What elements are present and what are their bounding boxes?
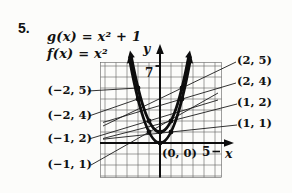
point-label-neg1-1: (−1, 1) [36, 158, 92, 171]
point-label-2-5: (2, 5) [237, 54, 272, 67]
leader-neg2-5 [88, 88, 138, 91]
x-tick-label: 5 [202, 145, 210, 159]
data-point [180, 86, 185, 91]
leader-neg2-4 [89, 99, 138, 116]
data-point [180, 97, 185, 102]
x-axis-label: x [225, 146, 232, 161]
point-label-1-1: (1, 1) [237, 117, 272, 130]
data-point [136, 97, 141, 102]
y-axis-label: y [143, 41, 150, 56]
data-point [169, 130, 174, 135]
point-label-2-4: (2, 4) [237, 75, 272, 88]
leader-neg1-2 [89, 100, 218, 139]
data-point [147, 119, 152, 124]
y-axis-arrow-icon [156, 44, 164, 54]
data-point [169, 119, 174, 124]
point-label-1-2: (1, 2) [237, 96, 272, 109]
figure-problem-5: 5. g(x) = x² + 1 f(x) = x² [0, 0, 292, 193]
point-label-neg2-5: (−2, 5) [36, 84, 92, 97]
origin-label: (0, 0) [162, 146, 197, 160]
data-point [158, 141, 163, 146]
point-label-neg1-2: (−1, 2) [36, 132, 92, 145]
point-label-neg2-4: (−2, 4) [36, 109, 92, 122]
data-point [136, 86, 141, 91]
data-point [158, 130, 163, 135]
data-point [147, 130, 152, 135]
y-tick-label: 7 [145, 66, 153, 80]
